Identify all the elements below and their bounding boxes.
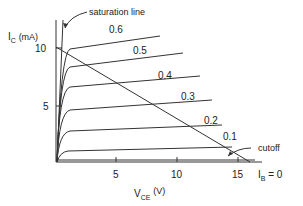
curve-label-0.3: 0.3 — [181, 92, 195, 102]
y-axis-label: IC (mA) — [8, 32, 38, 46]
curve-label-0.4: 0.4 — [158, 71, 172, 81]
cutoff-label: cutoff — [258, 143, 280, 153]
x-tick-5: 5 — [113, 170, 119, 180]
curve-label-0.1: 0.1 — [223, 132, 237, 142]
curve-label-0.6: 0.6 — [109, 25, 123, 35]
y-tick-5: 5 — [43, 102, 49, 112]
x-tick-15: 15 — [232, 170, 243, 180]
x-axis-label: VCE (V) — [134, 186, 165, 203]
ib-zero-label: IB = 0 — [258, 170, 282, 184]
curve-label-0.5: 0.5 — [133, 46, 147, 56]
x-tick-10: 10 — [171, 170, 182, 180]
curve-label-0.2: 0.2 — [204, 116, 218, 126]
saturation-line-label: saturation line — [89, 7, 145, 17]
y-tick-10: 10 — [35, 44, 46, 54]
